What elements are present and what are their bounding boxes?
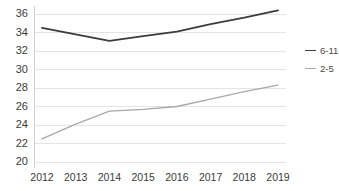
y-tick-label: 30 [2,63,28,75]
line-chart: 202224262830323436 201220132014201520162… [0,0,339,191]
y-tick-label: 26 [2,100,28,112]
y-tick-label: 34 [2,26,28,38]
y-tick-label: 22 [2,137,28,149]
legend-label-1: 2-5 [320,63,334,74]
legend-item-1[interactable]: 2-5 [305,62,334,74]
x-tick-label: 2015 [126,171,160,183]
gridlines [34,14,286,162]
series-line-6-11 [42,10,278,41]
y-tick-label: 28 [2,81,28,93]
x-tick-label: 2012 [25,171,59,183]
x-tick-label: 2017 [194,171,228,183]
y-tick-label: 20 [2,155,28,167]
y-tick-label: 32 [2,44,28,56]
plot-area [0,0,339,191]
x-tick-label: 2018 [227,171,261,183]
x-tick-label: 2013 [59,171,93,183]
legend-item-0[interactable]: 6-11 [305,44,338,56]
x-tick-label: 2019 [261,171,295,183]
y-tick-label: 24 [2,118,28,130]
legend-label-0: 6-11 [320,45,338,56]
legend-line-icon-1 [305,68,316,69]
y-tick-label: 36 [2,7,28,19]
x-tick-label: 2014 [92,171,126,183]
x-tick-label: 2016 [160,171,194,183]
legend-line-icon-0 [305,50,316,51]
series-line-2-5 [42,85,278,139]
data-series [42,10,278,139]
